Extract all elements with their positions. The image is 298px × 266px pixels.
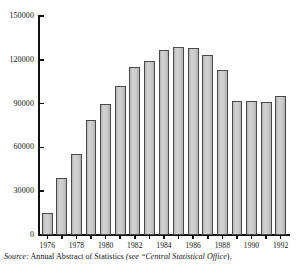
bar-1988: [217, 70, 228, 235]
y-axis-label-0: 0: [30, 230, 34, 239]
bar-1985: [173, 47, 184, 235]
x-axis-label-1978: 1978: [69, 241, 84, 250]
bar-chart-figure: 0300006000090000120000150000 19761978198…: [0, 0, 298, 266]
x-axis-tick-1977: [61, 235, 63, 239]
bars-container: [40, 16, 288, 235]
y-axis-label-150000: 150000: [9, 11, 34, 20]
x-axis-tick-1985: [178, 235, 180, 239]
x-axis-tick-1976: [47, 235, 49, 239]
y-axis-label-90000: 90000: [14, 99, 35, 108]
caption-source-text: Annual Abstract of Statistics: [31, 252, 124, 261]
caption-tail: ).: [227, 252, 232, 261]
x-axis-label-1980: 1980: [98, 241, 113, 250]
bar-1984: [159, 50, 170, 235]
x-axis-tick-1979: [90, 235, 92, 239]
bar-1991: [261, 102, 272, 235]
bar-1981: [115, 86, 126, 235]
x-axis-label-1988: 1988: [215, 241, 230, 250]
x-axis-label-1992: 1992: [273, 241, 288, 250]
caption-reference: “Central Statistical Office: [141, 252, 227, 261]
x-axis-label-1986: 1986: [185, 241, 200, 250]
x-axis-tick-1987: [207, 235, 209, 239]
bar-1976: [42, 213, 53, 235]
bar-1980: [100, 104, 111, 235]
bar-1989: [232, 101, 243, 235]
bar-1979: [86, 120, 97, 235]
x-axis-tick-1990: [251, 235, 253, 239]
x-axis-tick-1980: [105, 235, 107, 239]
x-axis-tick-1983: [149, 235, 151, 239]
x-axis-tick-1986: [192, 235, 194, 239]
source-caption: Source: Annual Abstract of Statistics (s…: [4, 252, 232, 261]
x-axis-tick-1981: [119, 235, 121, 239]
bar-1977: [56, 178, 67, 235]
x-axis-tick-1988: [222, 235, 224, 239]
x-axis-tick-1989: [236, 235, 238, 239]
bar-1983: [144, 61, 155, 235]
x-axis-label-1990: 1990: [244, 241, 259, 250]
x-axis-tick-1984: [163, 235, 165, 239]
bar-1986: [188, 48, 199, 235]
y-axis-label-60000: 60000: [14, 142, 35, 151]
x-axis-tick-1991: [265, 235, 267, 239]
x-axis-label-1982: 1982: [127, 241, 142, 250]
caption-see-label: (see: [126, 252, 139, 261]
bar-1990: [246, 101, 257, 235]
caption-source-label: Source:: [4, 252, 29, 261]
bar-1992: [275, 96, 286, 235]
y-axis-label-30000: 30000: [14, 186, 35, 195]
bar-1987: [202, 55, 213, 235]
bar-1982: [129, 67, 140, 235]
x-axis-tick-1982: [134, 235, 136, 239]
bar-1978: [71, 154, 82, 235]
y-axis-label-120000: 120000: [9, 55, 34, 64]
x-axis-tick-1978: [76, 235, 78, 239]
x-axis-label-1984: 1984: [156, 241, 171, 250]
x-axis-tick-1992: [280, 235, 282, 239]
x-axis-label-1976: 1976: [40, 241, 55, 250]
